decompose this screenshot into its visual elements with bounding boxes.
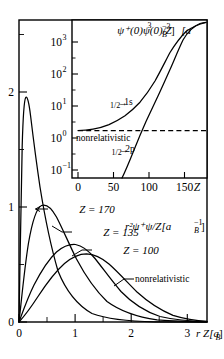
- label-z170: Z = 170: [36, 203, 140, 215]
- inset-label-nonrelativistic: nonrelativistic: [76, 133, 130, 143]
- main-xtick-2: 2: [128, 327, 134, 339]
- inset-ytick-100-exp: 2: [63, 65, 67, 74]
- inset-xtick-100: 100: [140, 181, 158, 193]
- main-yaxis-label-close: ]: [201, 220, 205, 232]
- main-ytick-0: 0: [8, 316, 14, 328]
- inset-ytick-100: 10 2: [51, 65, 67, 80]
- inset-ytick-1-base: 10: [51, 132, 63, 144]
- inset-ytick-1000-exp: 3: [63, 33, 67, 42]
- main-xtick-0: 0: [16, 327, 22, 339]
- inset-ytick-0p1-exp: −1: [63, 161, 72, 170]
- label-nonrelativistic-main-text: nonrelativistic: [135, 274, 189, 284]
- inset-ytick-1000-base: 10: [51, 36, 63, 48]
- main-xtick-1: 1: [72, 327, 78, 339]
- inset-ytick-1000: 10 3: [51, 33, 67, 48]
- inset-xaxis-symbol: Z: [194, 181, 201, 193]
- inset-ytick-1-exp: 0: [63, 129, 67, 138]
- physics-figure: 0 1 2 0 1 2 3 r Z[a B ] r²ψ⁺ψ/Z[a B −1 ]: [0, 0, 224, 359]
- curve-nonrelativistic: [19, 254, 207, 322]
- main-xaxis-label: r Z[a B ]: [196, 327, 223, 342]
- inset-ytick-100-base: 10: [51, 68, 63, 80]
- inset-ytick-10: 10 1: [51, 97, 67, 112]
- inset-xtick-50: 50: [108, 181, 120, 193]
- label-z135: Z = 135: [52, 226, 164, 238]
- inset-title-sub: B: [162, 30, 167, 39]
- inset-plot: 10 3 10 2 10 1 10 0 10 −1 0 50 100: [51, 20, 216, 193]
- inset-title-sup2: −3: [162, 22, 171, 31]
- main-ytick-2: 2: [8, 86, 14, 98]
- main-xtick-3: 3: [184, 327, 190, 339]
- inset-title-close: ]: [171, 24, 175, 36]
- label-z135-text: Z = 135: [73, 226, 164, 238]
- inset-ytick-0p1-base: 10: [51, 164, 63, 176]
- inset-ytick-10-base: 10: [51, 100, 63, 112]
- inset-label-2p-arrow: →: [119, 145, 129, 155]
- main-x-ticks: [19, 314, 187, 322]
- inset-ytick-0p1: 10 −1: [51, 161, 72, 176]
- inset-label-1s-arrow: →: [118, 98, 128, 108]
- main-ytick-1: 1: [8, 201, 14, 213]
- inset-ytick-1: 10 0: [51, 129, 67, 144]
- main-xaxis-label-close: ]: [219, 327, 223, 339]
- label-z100-text: Z = 100: [93, 244, 184, 256]
- label-z170-text: Z = 170: [49, 203, 140, 215]
- inset-xtick-0: 0: [75, 181, 81, 193]
- inset-xtick-150: 150: [176, 181, 194, 193]
- figure-root: 0 1 2 0 1 2 3 r Z[a B ] r²ψ⁺ψ/Z[a B −1 ]: [0, 0, 224, 359]
- inset-ytick-10-exp: 1: [63, 97, 67, 106]
- main-yaxis-label-sub: B: [194, 226, 199, 235]
